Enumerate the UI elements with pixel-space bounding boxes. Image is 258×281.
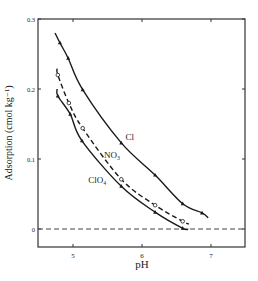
series-line-clo4 bbox=[57, 89, 189, 230]
data-point-circle bbox=[181, 220, 185, 224]
plot-border bbox=[38, 19, 245, 247]
y-tick-label: 0 bbox=[32, 226, 35, 233]
series-group: ClNO₃ClO₄ bbox=[55, 33, 208, 230]
x-tick-label: 7 bbox=[209, 252, 213, 260]
x-tick-label: 5 bbox=[71, 252, 75, 260]
series-label-no3: NO₃ bbox=[104, 150, 120, 160]
adsorption-ph-chart: 56700.10.20.3 ClNO₃ClO₄ pH Adsorption (c… bbox=[0, 0, 258, 281]
y-tick-label: 0.3 bbox=[27, 16, 35, 23]
series-label-clo4: ClO₄ bbox=[88, 175, 106, 185]
data-point-circle bbox=[56, 73, 60, 77]
series-line-no3 bbox=[57, 69, 189, 224]
data-point-circle bbox=[67, 101, 71, 105]
data-point-circle bbox=[81, 126, 85, 130]
series-label-cl: Cl bbox=[125, 132, 134, 142]
data-point-circle bbox=[120, 178, 124, 182]
x-axis-label: pH bbox=[135, 258, 149, 270]
y-axis-label: Adsorption (cmol kg⁻¹) bbox=[3, 86, 15, 181]
data-point-circle bbox=[153, 203, 157, 207]
y-tick-label: 0.1 bbox=[27, 156, 35, 163]
series-line-cl bbox=[55, 33, 208, 218]
y-tick-label: 0.2 bbox=[27, 86, 35, 93]
plot-frame: 56700.10.20.3 bbox=[27, 16, 245, 261]
